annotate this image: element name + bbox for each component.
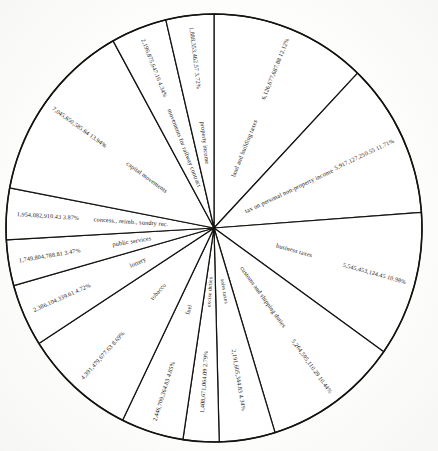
pie-chart-svg: land and building taxes6,126,677,687.88 … bbox=[0, 0, 438, 451]
pie-slice-group bbox=[6, 14, 422, 442]
pie-chart-figure: land and building taxes6,126,677,687.88 … bbox=[0, 0, 438, 451]
